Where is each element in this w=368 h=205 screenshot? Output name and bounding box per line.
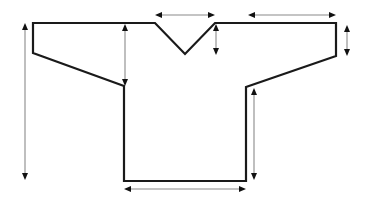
arrow-right-icon bbox=[208, 12, 215, 18]
arrow-left-icon bbox=[155, 12, 162, 18]
arrow-up-icon bbox=[122, 24, 128, 31]
dimension-armhole-depth bbox=[122, 24, 128, 86]
arrow-down-icon bbox=[344, 49, 350, 56]
garment-outline bbox=[33, 23, 336, 181]
garment-schematic bbox=[0, 0, 368, 205]
dimension-bottom-width bbox=[124, 186, 246, 192]
arrow-down-icon bbox=[213, 48, 219, 55]
arrow-right-icon bbox=[329, 12, 336, 18]
dimension-cuff-height bbox=[344, 25, 350, 56]
dimension-shoulder-width bbox=[248, 12, 336, 18]
dimension-total-length bbox=[22, 23, 28, 180]
arrow-left-icon bbox=[248, 12, 255, 18]
arrow-left-icon bbox=[124, 186, 131, 192]
arrow-right-icon bbox=[239, 186, 246, 192]
arrow-down-icon bbox=[251, 173, 257, 180]
arrow-up-icon bbox=[251, 88, 257, 95]
dimension-neck-depth bbox=[213, 24, 219, 55]
arrow-down-icon bbox=[22, 173, 28, 180]
arrow-up-icon bbox=[22, 23, 28, 30]
dimension-side-length bbox=[251, 88, 257, 180]
dimension-neck-width bbox=[155, 12, 215, 18]
arrow-up-icon bbox=[344, 25, 350, 32]
